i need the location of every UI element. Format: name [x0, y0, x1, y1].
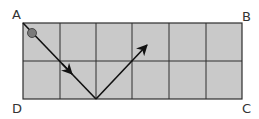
corner-label-a: A	[12, 7, 21, 22]
corner-label-d: D	[12, 101, 22, 116]
corner-label-c: C	[242, 101, 251, 116]
ball	[28, 29, 37, 38]
reflection-diagram: A B D C	[0, 0, 259, 119]
corner-label-b: B	[242, 9, 251, 24]
